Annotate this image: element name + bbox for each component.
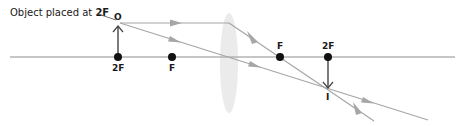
right-2f-point: [324, 53, 332, 61]
object-label: O: [114, 12, 122, 22]
image-label: I: [326, 92, 329, 102]
ray-arrowhead: [247, 31, 258, 44]
ray-arrowhead: [353, 102, 362, 115]
ray-arrowhead: [168, 36, 181, 43]
ray-through-centre: [120, 23, 428, 120]
left-2f-label: 2F: [112, 63, 124, 73]
ray-arrowhead: [248, 61, 261, 68]
convex-lens: [220, 13, 238, 113]
image-arrow: [323, 57, 333, 88]
right-2f-label: 2F: [322, 41, 334, 51]
ray-arrowhead: [170, 20, 182, 27]
right-f-point: [276, 53, 284, 61]
left-f-label: F: [169, 63, 175, 73]
left-f-point: [168, 53, 176, 61]
left-2f-point: [114, 53, 122, 61]
object-arrow: [113, 26, 123, 57]
convex-lens-ray-diagram: Object placed at 2F O I 2F F F 2F: [0, 0, 467, 126]
ray-arrowhead: [361, 97, 374, 104]
caption-text: Object placed at 2F: [10, 7, 109, 18]
right-f-label: F: [277, 41, 283, 51]
